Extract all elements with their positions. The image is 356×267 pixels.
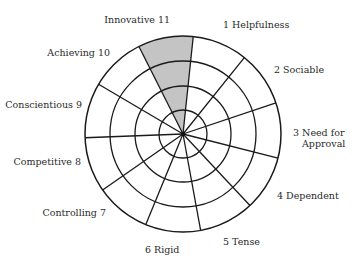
spoke-9 xyxy=(85,134,183,138)
label-helpfulness: 1 Helpfulness xyxy=(223,19,289,30)
center-point xyxy=(181,132,185,136)
label-tense: 5 Tense xyxy=(223,236,260,247)
label-rigid: 6 Rigid xyxy=(145,244,179,255)
circumplex-diagram: 1 Helpfulness 2 Sociable 3 Need for Appr… xyxy=(0,0,356,267)
spoke-2 xyxy=(183,58,244,134)
label-need-for-approval-line1: 3 Need for xyxy=(293,127,345,138)
label-need-for-approval-line2: Approval xyxy=(301,138,345,149)
spoke-5 xyxy=(183,134,250,206)
label-innovative: Innovative 11 xyxy=(104,14,170,25)
label-controlling: Controlling 7 xyxy=(42,207,106,218)
label-dependent: 4 Dependent xyxy=(277,190,339,201)
label-sociable: 2 Sociable xyxy=(274,64,324,75)
label-competitive: Competitive 8 xyxy=(14,156,81,167)
spoke-3 xyxy=(183,103,276,134)
label-conscientious: Conscientious 9 xyxy=(5,99,82,110)
label-achieving: Achieving 10 xyxy=(46,47,110,58)
